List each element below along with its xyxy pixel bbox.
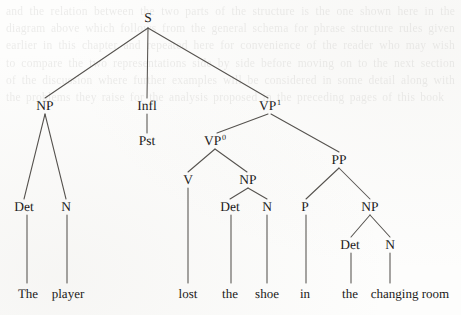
tree-node-vp1: VP1 [259,99,281,113]
tree-node-np1: NP [36,99,53,113]
tree-node-vp0: VP0 [204,134,226,148]
tree-node-n1: N [61,200,71,214]
tree-edge-np3-to-n3 [370,215,390,237]
tree-node-infl: Infl [137,99,157,113]
tree-edge-s-to-vp1 [148,28,268,98]
tree-edge-vp1-to-pp [271,114,339,152]
tree-edge-vp0-to-v [188,149,215,172]
tree-node-det3: Det [340,238,360,252]
terminal-word-w-player: player [52,287,84,300]
tree-edge-vp0-to-np2 [215,149,247,172]
terminal-word-w-shoe: shoe [255,287,279,300]
bar-level-superscript-vp1: 1 [277,98,281,107]
tree-node-pp: PP [331,153,346,167]
tree-edge-np2-to-det2 [230,188,248,199]
tree-node-n2: N [262,200,272,214]
terminal-word-w-the3: the [342,287,358,300]
tree-node-n3: N [385,238,395,252]
syntax-tree-figure: and the relation between the two parts o… [0,0,461,315]
tree-branches [0,0,461,315]
terminal-word-w-the2: the [222,287,238,300]
tree-node-v: V [183,173,193,187]
tree-edge-vp1-to-vp0 [217,114,268,133]
terminal-word-w-room: changing room [371,287,449,300]
tree-node-det1: Det [14,200,34,214]
terminal-word-w-lost: lost [179,287,198,300]
tree-node-pst: Pst [139,134,156,148]
tree-node-s: S [144,11,152,25]
tree-node-np2: NP [239,173,256,187]
tree-edge-np3-to-det3 [351,215,370,237]
terminal-word-w-the1: The [18,287,38,300]
bar-level-superscript-vp0: 0 [222,133,226,142]
tree-edge-pp-to-np3 [339,168,370,199]
tree-node-p: P [301,200,309,214]
tree-edge-np2-to-n2 [248,188,267,199]
paper-tint [0,0,461,315]
tree-edge-s-to-infl [147,28,148,98]
terminal-word-w-in: in [300,287,310,300]
tree-edge-pp-to-p [306,168,339,199]
tree-edge-s-to-np1 [45,28,148,98]
tree-edge-np1-to-n1 [45,114,66,199]
tree-edge-np1-to-det1 [24,114,45,199]
tree-node-np3: NP [361,200,378,214]
tree-node-det2: Det [220,200,240,214]
page-showthrough-text: and the relation between the two parts o… [0,0,461,315]
